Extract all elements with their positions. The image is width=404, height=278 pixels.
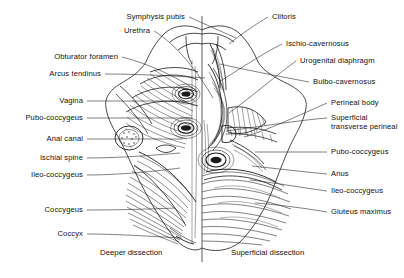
- label-bulbo-cavernosus: Bulbo-cavernosus: [313, 78, 375, 87]
- label-superficial-transverse-perineal: Superficial transverse perineal: [331, 114, 404, 131]
- label-ischial-spine: Ischial spine: [40, 154, 83, 163]
- label-ischio-cavernosus: Ischio-cavernosus: [286, 40, 349, 49]
- label-clitoris: Clitoris: [272, 13, 296, 22]
- label-anal-canal: Anal canal: [47, 135, 83, 144]
- label-urethra: Urethra: [124, 27, 150, 36]
- label-pubo-coccygeus: Pubo-coccygeus: [331, 148, 389, 157]
- label-anus: Anus: [331, 170, 349, 179]
- label-vagina: Vagina: [59, 97, 83, 106]
- superficial-dissection-half: [198, 44, 291, 245]
- label-urogenital-diaphragm: Urogenital diaphragm: [300, 57, 375, 66]
- caption-superficial-dissection: Superficial dissection: [231, 248, 304, 257]
- label-gluteus-maximus: Gluteus maximus: [331, 208, 404, 217]
- vagina-opening: [171, 118, 202, 139]
- label-perineal-body: Perineal body: [331, 99, 379, 108]
- label-ileo-coccygeus: Ileo-coccygeus: [31, 171, 83, 180]
- deeper-dissection-half: [115, 60, 202, 244]
- label-coccyx: Coccyx: [58, 230, 84, 239]
- label-symphysis-pubis: Symphysis pubis: [127, 13, 185, 22]
- caption-deeper-dissection: Deeper dissection: [100, 248, 162, 257]
- label-arcus-tendinus: Arcus tendinus: [49, 70, 101, 79]
- anatomical-figure: Symphysis pubisUrethraObturator foramenA…: [0, 0, 404, 278]
- label-coccygeus: Coccygeus: [45, 206, 83, 215]
- label-pubo-coccygeus: Pubo-coccygeus: [25, 114, 83, 123]
- label-obturator-foramen: Obturator foramen: [54, 53, 118, 62]
- label-ileo-coccygeus: Ileo-coccygeus: [331, 187, 383, 196]
- anal-canal-section: [115, 126, 143, 150]
